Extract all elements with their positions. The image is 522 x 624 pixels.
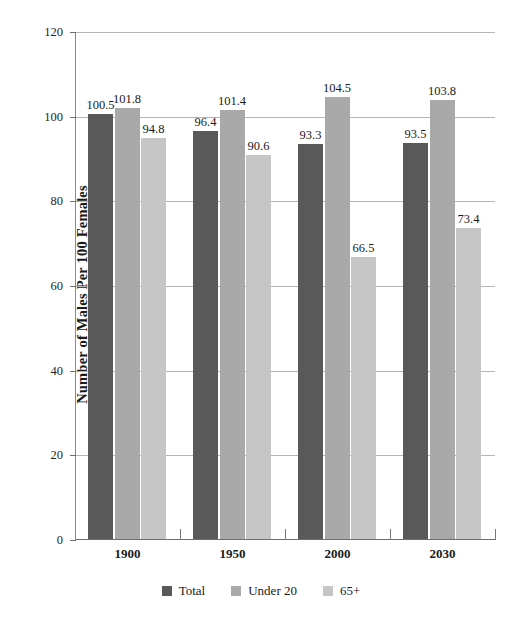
y-tick-label: 80 xyxy=(23,195,63,208)
legend-label: 65+ xyxy=(340,583,360,599)
bar-value-label: 73.4 xyxy=(446,213,492,226)
gridline xyxy=(75,32,495,33)
y-tick-mark xyxy=(70,371,76,372)
bar-value-label: 66.5 xyxy=(341,242,387,255)
x-tick-mark xyxy=(180,529,181,540)
y-tick-mark xyxy=(70,455,76,456)
bar-value-label: 101.4 xyxy=(209,95,255,108)
legend-label: Under 20 xyxy=(248,583,297,599)
bar xyxy=(298,144,323,539)
y-tick-label: 120 xyxy=(23,26,63,39)
bar xyxy=(430,100,455,539)
bar-value-label: 103.8 xyxy=(419,85,465,98)
legend-swatch-icon xyxy=(323,586,333,596)
x-tick-label: 2030 xyxy=(391,546,495,562)
bar-chart: Number of Males Per 100 Females 100.5101… xyxy=(0,0,522,624)
legend-label: Total xyxy=(179,583,206,599)
y-tick-label: 60 xyxy=(23,280,63,293)
y-tick-label: 40 xyxy=(23,365,63,378)
y-tick-mark xyxy=(70,286,76,287)
y-tick-label: 100 xyxy=(23,111,63,124)
legend-swatch-icon xyxy=(162,586,172,596)
y-tick-mark xyxy=(70,32,76,33)
y-tick-label: 20 xyxy=(23,449,63,462)
bar xyxy=(141,138,166,539)
legend-item: Under 20 xyxy=(231,583,297,599)
bar xyxy=(88,114,113,539)
x-tick-mark xyxy=(495,529,496,540)
legend-item: 65+ xyxy=(323,583,360,599)
bar xyxy=(403,143,428,539)
bar-value-label: 101.8 xyxy=(104,93,150,106)
y-tick-mark xyxy=(70,540,76,541)
bar xyxy=(351,257,376,539)
y-tick-mark xyxy=(70,201,76,202)
x-tick-label: 2000 xyxy=(286,546,390,562)
bar-value-label: 90.6 xyxy=(236,140,282,153)
bar-value-label: 94.8 xyxy=(131,123,177,136)
y-tick-label: 0 xyxy=(23,534,63,547)
bar xyxy=(193,131,218,539)
legend-item: Total xyxy=(162,583,206,599)
x-tick-mark xyxy=(390,529,391,540)
bar xyxy=(325,97,350,539)
bar-value-label: 104.5 xyxy=(314,82,360,95)
bar xyxy=(456,228,481,539)
x-tick-mark xyxy=(285,529,286,540)
chart-legend: TotalUnder 2065+ xyxy=(0,583,522,599)
x-tick-label: 1950 xyxy=(181,546,285,562)
bar xyxy=(115,108,140,539)
plot-area: 100.5101.894.896.4101.490.693.3104.566.5… xyxy=(75,32,495,540)
bar xyxy=(220,110,245,539)
x-tick-label: 1900 xyxy=(76,546,180,562)
y-tick-mark xyxy=(70,117,76,118)
bar xyxy=(246,155,271,539)
legend-swatch-icon xyxy=(231,586,241,596)
